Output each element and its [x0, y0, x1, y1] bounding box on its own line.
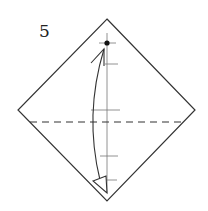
arrow-head-bottom-icon	[93, 176, 107, 193]
origami-diagram	[0, 0, 208, 211]
target-dot	[104, 40, 109, 45]
fold-arrow-curve	[93, 49, 104, 180]
